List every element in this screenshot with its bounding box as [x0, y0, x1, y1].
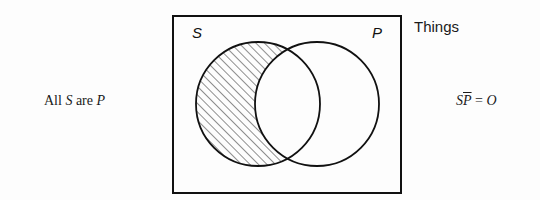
set-label-p: P — [372, 24, 382, 41]
venn-diagram: S P — [0, 0, 540, 200]
set-label-s: S — [192, 24, 202, 41]
shaded-region-s-not-p — [190, 35, 330, 175]
